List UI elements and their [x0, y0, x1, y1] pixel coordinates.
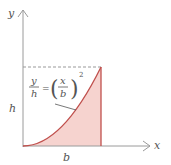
y-axis-label: y: [7, 7, 15, 20]
parabolic-area-diagram: y x h b y h = ( x b ) 2: [0, 0, 171, 165]
equation: y h = ( x b ) 2: [29, 71, 83, 101]
eq-rhs-denominator: b: [60, 88, 66, 99]
eq-lhs-denominator: h: [31, 88, 37, 99]
eq-exponent: 2: [79, 71, 83, 79]
eq-rhs-numerator: x: [60, 75, 66, 86]
eq-lhs-numerator: y: [30, 75, 37, 86]
height-label: h: [9, 102, 16, 115]
eq-left-paren: (: [50, 76, 59, 101]
base-label: b: [63, 151, 70, 164]
eq-right-paren: ): [70, 76, 79, 101]
x-axis-label: x: [154, 139, 161, 152]
equation-leader-line: [55, 104, 76, 110]
eq-equals: =: [42, 83, 50, 93]
